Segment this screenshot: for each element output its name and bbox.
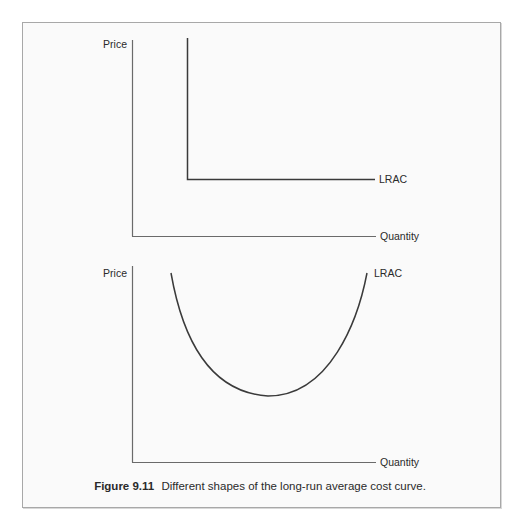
- figure-caption: Figure 9.11 Different shapes of the long…: [0, 480, 520, 492]
- bottom-lrac-curve: [171, 273, 367, 396]
- chart-bottom-u-shaped: Price Quantity LRAC: [103, 266, 420, 468]
- bottom-y-axis-label: Price: [103, 267, 127, 279]
- top-lrac-curve: [188, 38, 376, 180]
- figure-number: Figure 9.11: [94, 480, 154, 492]
- bottom-lrac-label: LRAC: [374, 267, 402, 279]
- bottom-x-axis-label: Quantity: [380, 456, 420, 468]
- top-y-axis-label: Price: [103, 38, 127, 50]
- top-lrac-label: LRAC: [379, 173, 407, 185]
- top-x-axis-label: Quantity: [380, 230, 420, 242]
- chart-top-l-shaped: Price Quantity LRAC: [103, 38, 420, 242]
- figure-caption-text: Different shapes of the long-run average…: [161, 480, 425, 492]
- figure-plots: Price Quantity LRAC Price Quantity LRAC: [0, 0, 520, 528]
